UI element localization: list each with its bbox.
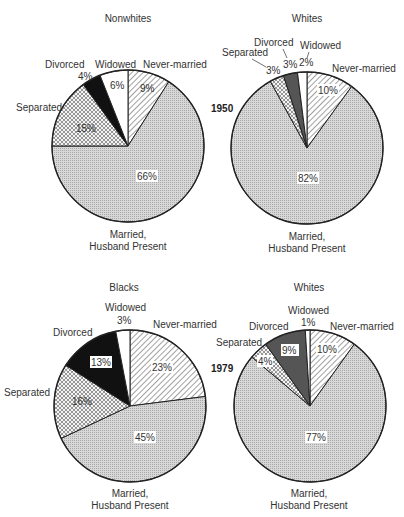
value-married: 82% [298, 173, 318, 184]
label-widowed: Widowed [105, 302, 146, 313]
pie-nonwhites-1950 [52, 70, 204, 222]
year-label-1950: 1950 [211, 103, 234, 114]
value-separated: 15% [76, 123, 96, 134]
label-widowed: Widowed [288, 305, 329, 316]
pie-chart-figure: Nonwhites Whites Blacks Whites 1950 1979… [0, 0, 404, 517]
label-divorced: Divorced [53, 327, 92, 338]
value-divorced: 3% [283, 59, 298, 70]
label-married-line2: Husband Present [268, 243, 345, 254]
leader-line [252, 59, 266, 67]
year-label-1979: 1979 [211, 363, 234, 374]
value-married: 77% [306, 432, 326, 443]
value-divorced: 4% [78, 71, 93, 82]
label-separated: Separated [4, 387, 50, 398]
label-separated: Separated [216, 337, 262, 348]
label-married-line2: Husband Present [89, 241, 166, 252]
value-widowed: 2% [299, 57, 314, 68]
leader-line [283, 49, 287, 58]
value-separated: 4% [258, 356, 273, 367]
label-widowed: Widowed [300, 40, 341, 51]
label-never-married: Never-married [332, 63, 396, 74]
label-married-line1: Married, [291, 488, 328, 499]
label-married-line2: Husband Present [91, 500, 168, 511]
label-married-line1: Married, [289, 231, 326, 242]
label-widowed: Widowed [95, 59, 136, 70]
value-married: 66% [137, 171, 157, 182]
value-widowed: 6% [110, 80, 125, 91]
title-whites-1979: Whites [294, 282, 325, 293]
value-widowed: 1% [301, 317, 316, 328]
title-whites-1950: Whites [292, 13, 323, 24]
label-married-line2: Husband Present [270, 500, 347, 511]
title-blacks-1979: Blacks [109, 282, 138, 293]
value-divorced: 13% [91, 357, 111, 368]
label-divorced: Divorced [249, 321, 288, 332]
label-never-married: Never-married [330, 321, 394, 332]
label-never-married: Never-married [153, 319, 217, 330]
value-married: 45% [135, 432, 155, 443]
label-separated: Separated [222, 47, 268, 58]
label-married-line1: Married, [112, 488, 149, 499]
title-nonwhites-1950: Nonwhites [105, 13, 152, 24]
label-separated: Separated [16, 102, 62, 113]
value-never-married: 23% [152, 362, 172, 373]
label-divorced: Divorced [45, 59, 84, 70]
label-married-line1: Married, [110, 229, 147, 240]
value-widowed: 3% [117, 315, 132, 326]
pie-whites-1950 [231, 72, 383, 224]
value-never-married: 10% [318, 85, 338, 96]
label-never-married: Never-married [143, 59, 207, 70]
value-never-married: 10% [317, 344, 337, 355]
value-never-married: 9% [140, 83, 155, 94]
value-separated: 3% [266, 65, 281, 76]
value-separated: 16% [72, 396, 92, 407]
pie-whites-1979 [234, 330, 386, 482]
value-divorced: 9% [282, 345, 297, 356]
